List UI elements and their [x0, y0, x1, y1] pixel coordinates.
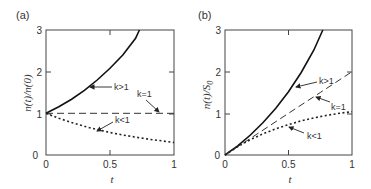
- panel-a-y-ticks: [46, 30, 174, 155]
- panel-b-annot-k-lt-1: k<1: [307, 131, 322, 141]
- panel-b-annot-k-eq-1: k=1: [331, 102, 346, 112]
- panel-a-xlabel: t: [110, 173, 114, 185]
- panel-b-ylabel-sub: 0: [206, 81, 215, 85]
- panel-b-ytick-3: 3: [215, 25, 221, 36]
- panel-b-ytick-1: 1: [215, 109, 221, 120]
- panel-a-ytick-1: 1: [36, 109, 42, 120]
- figure: (a) 0 1 2 3 0 0.5 1 t n(t)/n(0) k>1 k=1: [0, 0, 371, 189]
- panel-a-ytick-0: 0: [32, 150, 38, 161]
- panel-b-xtick-1: 1: [349, 159, 355, 170]
- panel-a-annot-k-lt-1: k<1: [115, 115, 130, 125]
- panel-b-xlabel: t: [288, 173, 292, 185]
- panel-a-ytick-2: 2: [36, 67, 42, 78]
- panel-a-ytick-3: 3: [36, 25, 42, 36]
- panel-a-annot-k-gt-1: k>1: [114, 82, 129, 92]
- panel-b-arrow-k-eq-1: [316, 97, 330, 102]
- panel-b-arrow-k-gt-1: [296, 82, 317, 87]
- panel-a-xtick-1: 1: [171, 159, 177, 170]
- panel-b-series: [225, 30, 352, 155]
- panel-b-xtick-05: 0.5: [282, 159, 296, 170]
- panel-a-ylabel: n(t)/n(0): [21, 74, 34, 112]
- panel-b-annot-k-gt-1: k>1: [319, 76, 334, 86]
- panel-b: (b) 0 1 2 3 0 0.5 1 t n(t)/S0 k>1 k=1: [198, 9, 355, 185]
- panel-b-xtick-0: 0: [222, 159, 228, 170]
- panel-a-arrow-k-eq-1: [146, 100, 159, 112]
- panel-b-label: (b): [198, 9, 211, 21]
- panel-a-series-k-gt-1: [46, 30, 139, 113]
- panel-a-xtick-05: 0.5: [103, 159, 117, 170]
- panel-b-ylabel: n(t)/S0: [200, 81, 215, 109]
- panel-b-ytick-0: 0: [214, 150, 220, 161]
- panel-b-ytick-2: 2: [215, 67, 221, 78]
- panel-a-arrow-k-lt-1: [97, 122, 113, 131]
- panel-a-annot-k-eq-1: k=1: [137, 89, 152, 99]
- panel-a-label: (a): [16, 9, 29, 21]
- panel-b-arrow-k-lt-1: [289, 127, 304, 133]
- svg-text:n(t)/S0: n(t)/S0: [200, 81, 215, 109]
- panel-a-xtick-0: 0: [43, 159, 49, 170]
- panel-b-ylabel-main: n(t)/S: [200, 84, 213, 109]
- panel-a-series: [46, 30, 174, 143]
- panel-a: (a) 0 1 2 3 0 0.5 1 t n(t)/n(0) k>1 k=1: [16, 9, 177, 185]
- panel-a-axes-frame: [46, 30, 174, 155]
- panel-a-series-k-lt-1: [46, 113, 174, 142]
- panel-b-series-k-lt-1: [225, 112, 352, 155]
